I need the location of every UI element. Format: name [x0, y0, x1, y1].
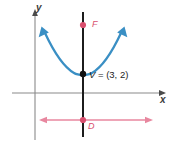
vertex-label-coords: (3, 2)	[106, 69, 128, 80]
x-axis-label: x	[160, 95, 166, 105]
directrix-left-arrowhead	[39, 117, 47, 123]
directrix-right-arrowhead	[145, 117, 153, 123]
focus-label: F	[92, 20, 98, 29]
focus-point	[80, 22, 86, 28]
vertex-point	[80, 71, 86, 77]
directrix-label: D	[88, 122, 95, 131]
vertex-label: V = (3, 2)	[89, 70, 128, 80]
directrix-point	[80, 117, 86, 123]
parabola-figure: y x F D V = (3, 2)	[0, 0, 177, 150]
vertex-label-equals: =	[95, 69, 106, 80]
y-axis-label: y	[36, 3, 42, 13]
